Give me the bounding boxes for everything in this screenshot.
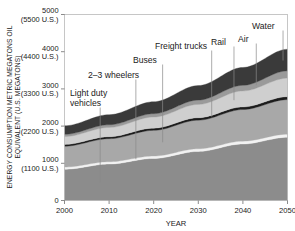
- x-tick-label-2040: 2040: [234, 206, 251, 215]
- chart-figure: 5000(5500 U.S.)4000(4400 U.S.)3000(3300 …: [0, 0, 295, 231]
- y-axis-title-line2: EQUIVALENT (U.S. MEGATONS): [14, 55, 22, 158]
- annotation-label-light-duty-vehicles: Light duty: [70, 88, 108, 98]
- x-tick-label-2030: 2030: [190, 206, 207, 215]
- x-tick-label-2020: 2020: [145, 206, 162, 215]
- x-tick-label-2010: 2010: [101, 206, 118, 215]
- annotation-label-air: Air: [238, 34, 249, 44]
- energy-consumption-stacked-area-chart: 5000(5500 U.S.)4000(4400 U.S.)3000(3300 …: [0, 0, 295, 231]
- annotation-label-water: Water: [252, 21, 275, 31]
- y-axis-title-line1: ENERGY CONSUMPTION METRIC MEGATONS OIL: [6, 25, 13, 188]
- annotation-label-light-duty-vehicles-line2: vehicles: [70, 98, 101, 108]
- x-axis-title: YEAR: [166, 219, 187, 228]
- y-tick-sublabel-1000: (1100 U.S.): [21, 164, 58, 173]
- annotation-label-two-three-wheelers: 2–3 wheelers: [88, 70, 139, 80]
- y-tick-sublabel-2000: (2200 U.S.): [21, 127, 59, 136]
- annotation-label-freight-trucks: Freight trucks: [155, 41, 207, 51]
- y-tick-sublabel-4000: (4400 U.S.): [21, 52, 59, 61]
- y-tick-sublabel-5000: (5500 U.S.): [21, 15, 59, 24]
- annotation-label-rail: Rail: [211, 37, 226, 47]
- x-tick-label-2000: 2000: [56, 206, 73, 215]
- x-tick-label-2050: 2050: [279, 206, 295, 215]
- y-tick-sublabel-3000: (3300 U.S.): [21, 89, 59, 98]
- annotation-label-buses: Buses: [133, 55, 157, 65]
- y-tick-label-0: 0: [54, 196, 58, 205]
